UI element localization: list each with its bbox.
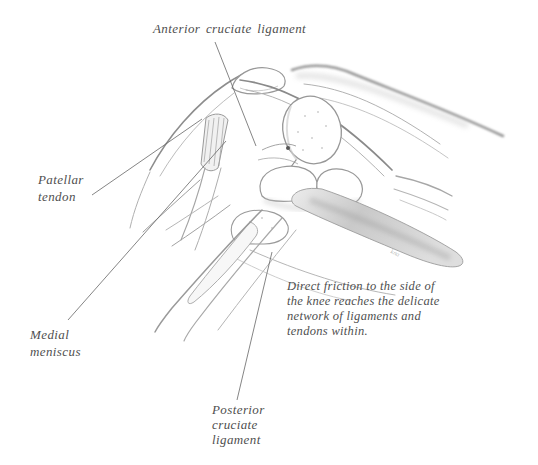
caption-text: Direct friction to the side of the knee … xyxy=(287,279,440,339)
knee-illustration: kna xyxy=(0,0,538,465)
label-patellar-tendon: Patellar tendon xyxy=(38,171,84,205)
patellar-retinaculum-band xyxy=(181,114,228,250)
leader-patellar-tendon xyxy=(92,119,202,195)
calf-mass: kna xyxy=(292,188,463,267)
leader-posterior-cruciate xyxy=(237,252,272,400)
label-anterior-cruciate-ligament: Anterior cruciate ligament xyxy=(153,20,306,37)
label-posterior-cruciate-ligament: Posterior cruciate ligament xyxy=(212,402,265,447)
label-medial-meniscus: Medial meniscus xyxy=(30,326,81,360)
illustration-page: kna Anterior cruciate ligament Patellar … xyxy=(0,0,538,465)
